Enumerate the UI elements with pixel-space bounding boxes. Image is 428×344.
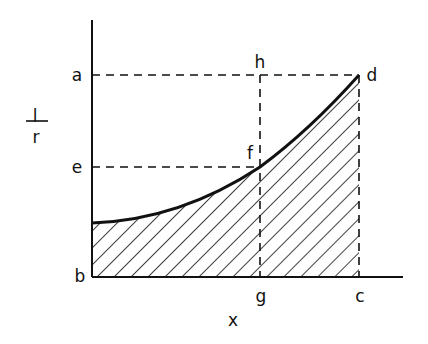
label-b: b (75, 266, 86, 286)
label-c: c (355, 286, 364, 306)
x-axis-label: x (228, 310, 238, 330)
label-h: h (255, 52, 266, 72)
y-axis-label: l r (26, 106, 48, 147)
diagram-canvas: l r a e b h d f g c x (0, 0, 428, 344)
label-a: a (72, 65, 82, 85)
hatched-area (92, 60, 362, 280)
y-label-denominator: r (33, 127, 40, 147)
label-g: g (256, 286, 267, 306)
label-e: e (72, 157, 82, 177)
label-d: d (367, 65, 378, 85)
label-f: f (247, 143, 254, 163)
y-label-numerator: l (33, 106, 38, 126)
